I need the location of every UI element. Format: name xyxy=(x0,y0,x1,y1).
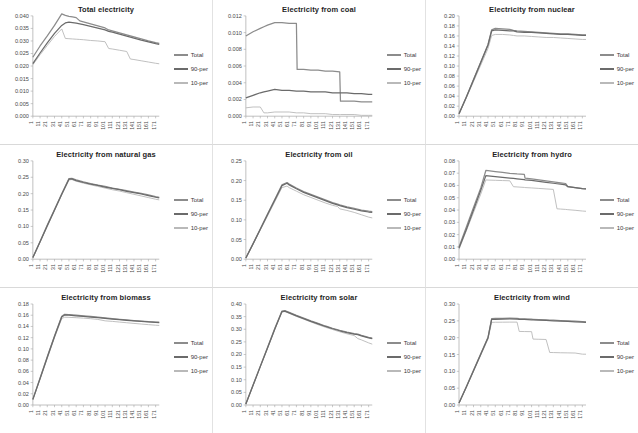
x-tick-label: 1 xyxy=(241,121,247,124)
y-tick-label: 0.20 xyxy=(231,351,242,357)
legend-swatch-total-icon xyxy=(600,342,614,344)
legend-swatch-10-per-icon xyxy=(174,370,188,372)
x-tick-label: 1 xyxy=(28,410,34,413)
x-tick-label: 61 xyxy=(498,264,504,270)
x-tick-label: 161 xyxy=(143,264,149,273)
legend-item[interactable]: 90-per xyxy=(174,66,208,72)
chart-legend: Total90-per10-per xyxy=(387,340,421,374)
legend-item[interactable]: 10-per xyxy=(387,368,421,374)
legend-item[interactable]: Total xyxy=(174,197,208,203)
legend-item[interactable]: 90-per xyxy=(387,66,421,72)
x-tick-label: 81 xyxy=(299,121,305,127)
x-tick-label: 171 xyxy=(364,121,370,130)
series-line-10-per xyxy=(459,180,586,249)
x-tick-label: 111 xyxy=(534,264,540,272)
legend-item[interactable]: 10-per xyxy=(174,80,208,86)
y-tick-label: 0.020 xyxy=(15,63,29,69)
y-tick-label: 0.08 xyxy=(18,357,29,363)
x-tick-label: 1 xyxy=(241,410,247,413)
x-tick-label: 51 xyxy=(64,410,70,416)
legend-item[interactable]: Total xyxy=(600,340,634,346)
y-tick-label: 0.006 xyxy=(228,63,242,69)
y-tick-label: 0.04 xyxy=(444,93,455,99)
chart-legend: Total90-per10-per xyxy=(174,340,208,374)
x-tick-label: 81 xyxy=(86,264,92,270)
x-tick-label: 91 xyxy=(306,121,312,127)
chart-panel-electricity-from-natural-gas: Electricity from natural gas0.300.250.20… xyxy=(0,145,213,288)
x-tick-label: 171 xyxy=(577,410,583,419)
x-tick-label: 111 xyxy=(320,121,326,129)
legend-item[interactable]: Total xyxy=(387,52,421,58)
y-tick-label: 0.04 xyxy=(18,380,29,386)
x-tick-label: 81 xyxy=(299,264,305,270)
legend-item[interactable]: 90-per xyxy=(387,211,421,217)
legend-item[interactable]: 90-per xyxy=(174,211,208,217)
legend-item[interactable]: 90-per xyxy=(600,354,634,360)
x-tick-label: 21 xyxy=(255,121,261,127)
x-tick-label: 111 xyxy=(320,264,326,272)
y-tick-label: 0.01 xyxy=(444,244,455,250)
x-tick-label: 31 xyxy=(50,264,56,270)
x-tick-label: 131 xyxy=(335,410,341,419)
legend-item[interactable]: 10-per xyxy=(174,368,208,374)
legend-swatch-total-icon xyxy=(174,199,188,201)
legend-item[interactable]: 10-per xyxy=(600,225,634,231)
x-tick-label: 51 xyxy=(490,121,496,127)
legend-label: 90-per xyxy=(404,354,421,360)
legend-item[interactable]: Total xyxy=(600,197,634,203)
legend-item[interactable]: Total xyxy=(600,52,634,58)
x-tick-label: 171 xyxy=(364,264,370,273)
x-tick-label: 141 xyxy=(342,121,348,130)
x-tick-label: 21 xyxy=(469,410,475,416)
x-tick-label: 1 xyxy=(241,264,247,267)
legend-item[interactable]: 10-per xyxy=(600,368,634,374)
x-tick-label: 31 xyxy=(50,410,56,416)
legend-swatch-90-per-icon xyxy=(174,356,188,358)
y-tick-label: 0.06 xyxy=(444,83,455,89)
x-tick-label: 71 xyxy=(291,264,297,270)
legend-item[interactable]: 10-per xyxy=(174,225,208,231)
x-tick-label: 111 xyxy=(107,121,113,129)
y-tick-label: 0.02 xyxy=(18,391,29,397)
legend-item[interactable]: 10-per xyxy=(387,225,421,231)
x-tick-label: 61 xyxy=(71,264,77,270)
y-tick-label: 0.010 xyxy=(228,30,242,36)
y-tick-label: 0.30 xyxy=(18,158,29,164)
legend-item[interactable]: 90-per xyxy=(174,354,208,360)
x-tick-label: 71 xyxy=(78,264,84,270)
x-tick-label: 141 xyxy=(342,410,348,419)
legend-item[interactable]: 90-per xyxy=(600,66,634,72)
legend-item[interactable]: 90-per xyxy=(600,211,634,217)
legend-item[interactable]: Total xyxy=(387,340,421,346)
legend-item[interactable]: 90-per xyxy=(387,354,421,360)
legend-label: Total xyxy=(191,52,204,58)
series-line-10-per xyxy=(33,180,159,258)
legend-item[interactable]: 10-per xyxy=(600,80,634,86)
y-tick-label: 0.20 xyxy=(231,178,242,184)
y-tick-label: 0.004 xyxy=(228,80,242,86)
chart-legend: Total90-per10-per xyxy=(387,52,421,86)
chart-panel-electricity-from-coal: Electricity from coal0.0120.0100.0080.00… xyxy=(213,0,426,145)
x-tick-label: 81 xyxy=(86,121,92,127)
y-tick-label: 0.030 xyxy=(15,38,29,44)
series-line-90-per xyxy=(246,89,372,97)
y-tick-label: 0.025 xyxy=(15,50,29,56)
x-tick-label: 41 xyxy=(483,410,489,416)
legend-swatch-90-per-icon xyxy=(600,213,614,215)
legend-item[interactable]: Total xyxy=(387,197,421,203)
legend-label: 90-per xyxy=(191,66,208,72)
legend-item[interactable]: Total xyxy=(174,52,208,58)
legend-item[interactable]: 10-per xyxy=(387,80,421,86)
x-tick-label: 91 xyxy=(519,121,525,127)
x-tick-label: 51 xyxy=(277,264,283,270)
y-tick-label: 0.035 xyxy=(15,25,29,31)
legend-item[interactable]: Total xyxy=(174,340,208,346)
x-tick-label: 1 xyxy=(28,264,34,267)
y-tick-label: 0.06 xyxy=(444,182,455,188)
legend-swatch-total-icon xyxy=(387,54,401,56)
x-tick-label: 101 xyxy=(100,264,106,273)
x-tick-label: 131 xyxy=(335,264,341,273)
y-tick-label: 0.06 xyxy=(18,368,29,374)
legend-label: Total xyxy=(617,340,630,346)
legend-swatch-total-icon xyxy=(174,54,188,56)
